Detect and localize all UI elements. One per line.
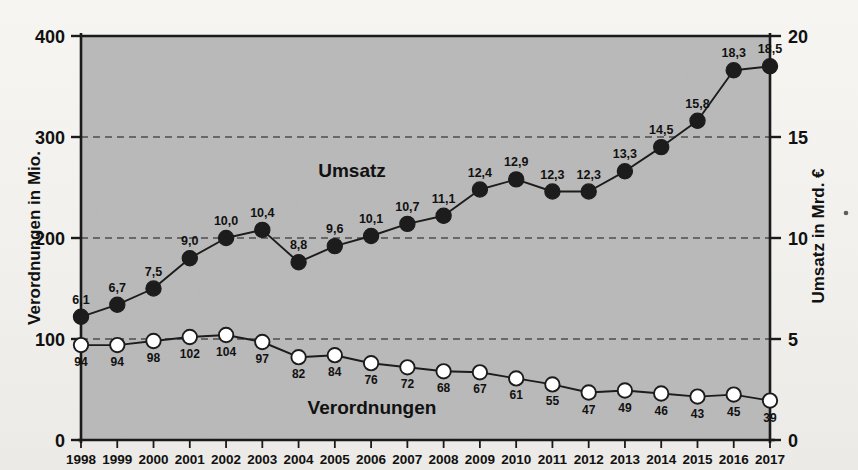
point-label-umsatz-2003: 10,4 <box>250 206 274 220</box>
data-point-umsatz-2013 <box>617 164 632 179</box>
x-tick-label-2011: 2011 <box>538 452 568 467</box>
left-tick-label-100: 100 <box>35 330 65 350</box>
data-point-verordnungen-2017 <box>763 393 777 407</box>
data-point-umsatz-2014 <box>654 140 669 155</box>
point-label-verordnungen-2009: 67 <box>473 382 487 396</box>
data-point-verordnungen-2009 <box>473 365 487 379</box>
data-point-verordnungen-2006 <box>364 356 378 370</box>
data-point-umsatz-2011 <box>545 184 560 199</box>
point-label-verordnungen-1998: 94 <box>74 355 88 369</box>
x-tick-label-2010: 2010 <box>501 452 531 467</box>
data-point-verordnungen-2016 <box>727 387 741 401</box>
dual-axis-line-chart: 0100200300400 05101520 19981999200020012… <box>0 0 858 470</box>
point-label-umsatz-2015: 15,8 <box>685 97 709 111</box>
data-point-verordnungen-2004 <box>291 350 305 364</box>
point-label-verordnungen-2008: 68 <box>437 381 451 395</box>
point-label-umsatz-2014: 14,5 <box>649 123 673 137</box>
data-point-verordnungen-2005 <box>328 348 342 362</box>
right-tick-label-10: 10 <box>788 229 808 249</box>
right-tick-label-5: 5 <box>788 330 798 350</box>
point-label-umsatz-2006: 10,1 <box>359 212 383 226</box>
point-label-verordnungen-2004: 82 <box>292 367 306 381</box>
left-tick-label-300: 300 <box>35 128 65 148</box>
data-point-verordnungen-2014 <box>654 386 668 400</box>
verordnungen-annotation: Verordnungen <box>308 397 437 418</box>
data-point-verordnungen-2000 <box>146 334 160 348</box>
point-label-umsatz-2013: 13,3 <box>613 147 637 161</box>
data-point-verordnungen-2015 <box>690 389 704 403</box>
point-label-umsatz-2005: 9,6 <box>326 222 343 236</box>
data-point-verordnungen-2001 <box>183 330 197 344</box>
x-tick-label-2014: 2014 <box>646 452 677 467</box>
right-tick-label-0: 0 <box>788 431 798 451</box>
point-label-verordnungen-2014: 46 <box>655 404 669 418</box>
x-tick-label-2013: 2013 <box>610 452 641 467</box>
page-background: 0100200300400 05101520 19981999200020012… <box>0 0 858 470</box>
point-label-umsatz-2012: 12,3 <box>577 168 601 182</box>
x-tick-label-2015: 2015 <box>682 452 713 467</box>
x-tick-label-2003: 2003 <box>247 452 278 467</box>
data-point-verordnungen-2012 <box>582 385 596 399</box>
point-label-umsatz-2010: 12,9 <box>504 155 528 169</box>
right-axis-ticks: 05101520 <box>770 27 808 451</box>
data-point-umsatz-2017 <box>762 59 777 74</box>
point-label-verordnungen-2006: 76 <box>364 373 378 387</box>
x-tick-label-1998: 1998 <box>66 452 97 467</box>
x-tick-label-2012: 2012 <box>574 452 604 467</box>
data-point-umsatz-2000 <box>146 281 161 296</box>
data-point-umsatz-2009 <box>472 182 487 197</box>
point-label-verordnungen-2017: 39 <box>763 411 777 425</box>
point-label-verordnungen-1999: 94 <box>111 355 125 369</box>
point-label-umsatz-1999: 6,7 <box>109 281 126 295</box>
point-label-verordnungen-2016: 45 <box>727 405 741 419</box>
x-axis-tick-labels: 1998199920002001200220032004200520062007… <box>66 452 785 467</box>
umsatz-annotation: Umsatz <box>318 160 386 181</box>
point-label-verordnungen-2007: 72 <box>401 377 415 391</box>
x-tick-label-2016: 2016 <box>719 452 750 467</box>
point-label-umsatz-2016: 18,3 <box>722 46 746 60</box>
data-point-verordnungen-2003 <box>255 335 269 349</box>
x-tick-label-1999: 1999 <box>102 452 132 467</box>
data-point-umsatz-2002 <box>219 230 234 245</box>
data-point-verordnungen-2002 <box>219 328 233 342</box>
data-point-umsatz-2004 <box>291 255 306 270</box>
data-point-umsatz-2008 <box>436 208 451 223</box>
point-label-verordnungen-2005: 84 <box>328 365 342 379</box>
point-label-verordnungen-2010: 61 <box>510 388 524 402</box>
data-point-verordnungen-1999 <box>110 338 124 352</box>
x-tick-label-2001: 2001 <box>175 452 206 467</box>
point-label-verordnungen-2012: 47 <box>582 403 596 417</box>
point-label-umsatz-2002: 10,0 <box>214 214 238 228</box>
point-label-umsatz-2000: 7,5 <box>145 265 162 279</box>
data-point-umsatz-1998 <box>73 309 88 324</box>
data-point-umsatz-2015 <box>690 113 705 128</box>
right-axis-title: Umsatz in Mrd. € <box>809 168 828 304</box>
left-tick-label-400: 400 <box>35 27 65 47</box>
x-tick-label-2017: 2017 <box>755 452 785 467</box>
point-label-umsatz-2009: 12,4 <box>468 166 492 180</box>
x-tick-label-2009: 2009 <box>465 452 495 467</box>
data-point-verordnungen-2011 <box>545 377 559 391</box>
point-label-umsatz-1998: 6,1 <box>72 293 89 307</box>
x-tick-label-2004: 2004 <box>284 452 315 467</box>
right-tick-label-20: 20 <box>788 27 808 47</box>
data-point-verordnungen-2010 <box>509 371 523 385</box>
data-point-verordnungen-1998 <box>74 338 88 352</box>
left-axis-title: Verordnungen in Mio. <box>25 151 44 325</box>
point-label-verordnungen-2003: 97 <box>256 352 270 366</box>
data-point-umsatz-1999 <box>110 297 125 312</box>
data-point-umsatz-2007 <box>400 216 415 231</box>
point-label-verordnungen-2000: 98 <box>147 351 161 365</box>
chart-root: 0100200300400 05101520 19981999200020012… <box>0 0 858 470</box>
x-axis-ticks <box>81 440 770 448</box>
point-label-verordnungen-2011: 55 <box>546 394 560 408</box>
x-tick-label-2007: 2007 <box>392 452 422 467</box>
x-tick-label-2002: 2002 <box>211 452 241 467</box>
data-point-umsatz-2005 <box>327 239 342 254</box>
point-label-umsatz-2004: 8,8 <box>290 238 307 252</box>
x-tick-label-2000: 2000 <box>139 452 169 467</box>
point-label-verordnungen-2001: 102 <box>180 347 200 361</box>
data-point-verordnungen-2008 <box>436 364 450 378</box>
ink-speck-artifact <box>844 211 849 216</box>
x-tick-label-2008: 2008 <box>429 452 460 467</box>
